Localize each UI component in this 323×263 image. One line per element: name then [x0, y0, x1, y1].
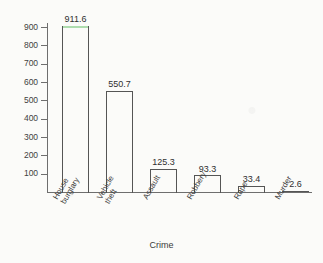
- bar-value-label: 125.3: [140, 157, 187, 167]
- bar-value-label: 550.7: [96, 79, 143, 89]
- x-axis-title: Crime: [0, 240, 323, 250]
- y-axis-tick: [41, 45, 47, 46]
- bar-top-highlight: [63, 26, 88, 28]
- y-axis-tick-label: 200: [4, 151, 38, 160]
- bar-value-label: 911.6: [52, 14, 99, 24]
- y-axis-tick-label: 600: [4, 78, 38, 87]
- y-axis-tick-label: 400: [4, 114, 38, 123]
- y-axis-tick: [41, 137, 47, 138]
- y-axis-line: [47, 23, 48, 193]
- y-axis-tick: [41, 155, 47, 156]
- y-axis-tick-label: 100: [4, 169, 38, 178]
- y-axis-tick: [41, 119, 47, 120]
- bar-chart: 900 800 700 600 500 400 300 200 100 911.…: [0, 0, 323, 263]
- y-axis-tick: [41, 27, 47, 28]
- bar-value-label: 33.4: [229, 174, 274, 184]
- bar-house-burglary: [62, 26, 89, 193]
- y-axis-tick: [41, 82, 47, 83]
- plot-area: 900 800 700 600 500 400 300 200 100 911.…: [0, 0, 323, 263]
- y-axis-tick-label: 300: [4, 133, 38, 142]
- y-axis-tick: [41, 64, 47, 65]
- y-axis-tick-label: 500: [4, 96, 38, 105]
- y-axis-tick-label: 800: [4, 41, 38, 50]
- y-axis-tick: [41, 174, 47, 175]
- y-axis-tick-label: 900: [4, 23, 38, 32]
- bar-value-label: 93.3: [185, 164, 230, 174]
- y-axis-tick: [41, 100, 47, 101]
- y-axis-tick-label: 700: [4, 59, 38, 68]
